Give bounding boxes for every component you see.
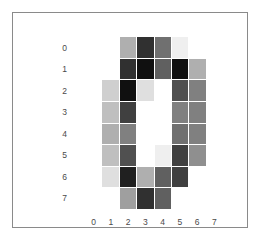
heatmap-cell bbox=[120, 59, 136, 80]
heatmap-cell bbox=[85, 145, 101, 166]
heatmap-cell bbox=[172, 102, 188, 123]
heatmap-cell bbox=[120, 188, 136, 209]
heatmap-cell bbox=[137, 102, 153, 123]
heatmap-cell bbox=[137, 188, 153, 209]
heatmap-cell bbox=[102, 59, 118, 80]
y-tick-label: 7 bbox=[53, 193, 67, 203]
heatmap-cell bbox=[172, 167, 188, 188]
heatmap-cell bbox=[85, 102, 101, 123]
heatmap-cell bbox=[155, 59, 171, 80]
heatmap-cell bbox=[189, 59, 205, 80]
heatmap-cell bbox=[102, 80, 118, 101]
heatmap-cell bbox=[172, 59, 188, 80]
x-tick-label: 0 bbox=[87, 217, 101, 227]
heatmap-cell bbox=[102, 37, 118, 58]
heatmap-cell bbox=[155, 102, 171, 123]
heatmap-cell bbox=[102, 167, 118, 188]
heatmap-cell bbox=[85, 167, 101, 188]
heatmap-cell bbox=[85, 37, 101, 58]
heatmap-cell bbox=[137, 37, 153, 58]
heatmap-cell bbox=[172, 188, 188, 209]
heatmap-cell bbox=[137, 167, 153, 188]
heatmap-cell bbox=[85, 80, 101, 101]
heatmap-cell bbox=[155, 124, 171, 145]
x-tick-label: 4 bbox=[156, 217, 170, 227]
heatmap-cell bbox=[189, 80, 205, 101]
heatmap-cell bbox=[155, 37, 171, 58]
heatmap-cell bbox=[137, 59, 153, 80]
figure-canvas: 01234567 01234567 bbox=[0, 0, 263, 239]
heatmap-cell bbox=[189, 188, 205, 209]
heatmap-cell bbox=[102, 188, 118, 209]
heatmap-cell bbox=[137, 124, 153, 145]
heatmap-cell bbox=[137, 145, 153, 166]
y-tick-label: 4 bbox=[53, 129, 67, 139]
x-tick-label: 6 bbox=[190, 217, 204, 227]
y-tick-label: 2 bbox=[53, 86, 67, 96]
heatmap-cell bbox=[189, 167, 205, 188]
heatmap-cell bbox=[102, 145, 118, 166]
heatmap-cell bbox=[172, 124, 188, 145]
heatmap-cell bbox=[120, 37, 136, 58]
x-tick-label: 2 bbox=[121, 217, 135, 227]
y-tick-label: 5 bbox=[53, 150, 67, 160]
y-tick-label: 1 bbox=[53, 64, 67, 74]
heatmap-cell bbox=[189, 37, 205, 58]
heatmap-cell bbox=[155, 145, 171, 166]
y-tick-label: 6 bbox=[53, 172, 67, 182]
heatmap-cell bbox=[120, 80, 136, 101]
heatmap-cell bbox=[85, 59, 101, 80]
heatmap-cell bbox=[207, 37, 223, 58]
heatmap-cell bbox=[120, 167, 136, 188]
heatmap-cell bbox=[207, 59, 223, 80]
heatmap-cell bbox=[155, 167, 171, 188]
heatmap-cell bbox=[172, 80, 188, 101]
heatmap-cell bbox=[207, 167, 223, 188]
heatmap-cell bbox=[207, 80, 223, 101]
heatmap-cell bbox=[207, 188, 223, 209]
heatmap-cell bbox=[207, 102, 223, 123]
x-tick-label: 5 bbox=[173, 217, 187, 227]
heatmap-cell bbox=[120, 124, 136, 145]
x-tick-label: 3 bbox=[138, 217, 152, 227]
heatmap-cell bbox=[120, 145, 136, 166]
heatmap-cell bbox=[155, 188, 171, 209]
heatmap-cell bbox=[189, 124, 205, 145]
y-tick-label: 3 bbox=[53, 107, 67, 117]
heatmap-cell bbox=[102, 124, 118, 145]
heatmap-cell bbox=[207, 124, 223, 145]
heatmap-cell bbox=[85, 188, 101, 209]
heatmap-cell bbox=[137, 80, 153, 101]
heatmap-cell bbox=[172, 145, 188, 166]
heatmap-cell bbox=[120, 102, 136, 123]
x-tick-label: 1 bbox=[104, 217, 118, 227]
heatmap-cell bbox=[85, 124, 101, 145]
y-tick-label: 0 bbox=[53, 43, 67, 53]
heatmap-cell bbox=[207, 145, 223, 166]
heatmap-cell bbox=[155, 80, 171, 101]
x-tick-label: 7 bbox=[207, 217, 221, 227]
heatmap-cell bbox=[102, 102, 118, 123]
heatmap-cell bbox=[189, 145, 205, 166]
heatmap-cell bbox=[172, 37, 188, 58]
heatmap-axes: 01234567 01234567 bbox=[85, 37, 223, 209]
heatmap-cell bbox=[189, 102, 205, 123]
heatmap-grid bbox=[85, 37, 223, 209]
figure-frame: 01234567 01234567 bbox=[12, 12, 248, 228]
